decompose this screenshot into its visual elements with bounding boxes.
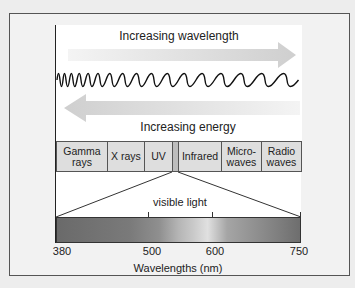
- tick-500: [148, 212, 149, 217]
- tick-label-500: 500: [143, 245, 161, 257]
- tick-label-750: 750: [290, 245, 308, 257]
- tick-750: [300, 212, 301, 217]
- visible-spectrum-bar: [56, 217, 301, 243]
- tick-600: [212, 212, 213, 217]
- tick-label-380: 380: [53, 245, 71, 257]
- visible-light-label: visible light: [153, 196, 207, 208]
- tick-label-600: 600: [206, 245, 224, 257]
- axis-label: Wavelengths (nm): [134, 262, 223, 274]
